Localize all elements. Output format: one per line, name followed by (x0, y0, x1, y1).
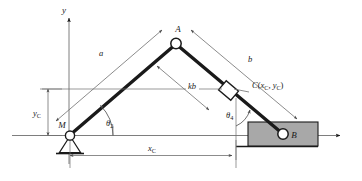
link-a-bar (70, 44, 176, 135)
dimension-link-a-line (56, 30, 162, 121)
dimension-link-b (191, 30, 297, 119)
dimension-kb-line (157, 66, 209, 110)
point-label-c: C(xC, yC) (252, 80, 284, 91)
dimension-label-kb: kb (188, 81, 196, 91)
dimension-label-b: b (248, 54, 252, 64)
dimension-label-xc: xC (147, 143, 156, 154)
dimension-link-a (56, 30, 162, 121)
dimension-label-a: a (99, 48, 103, 58)
angle-label-theta4: θ4 (226, 110, 233, 121)
pivot-joint-m-circle (65, 131, 74, 140)
pin-joint-a-circle (171, 38, 181, 48)
point-label-m: M (57, 120, 66, 130)
point-label-b: B (291, 130, 297, 140)
dimension-kb (157, 66, 209, 110)
y-axis-label: y (61, 5, 66, 15)
angle-label-theta2: θ2 (106, 118, 113, 129)
figure-root: y M A B a (0, 0, 362, 181)
dimension-xc (70, 140, 236, 168)
pin-joint-b-circle (278, 129, 288, 139)
dimension-link-b-line (191, 30, 297, 119)
point-label-a: A (174, 24, 181, 34)
dimension-label-yc: yC (32, 108, 41, 119)
